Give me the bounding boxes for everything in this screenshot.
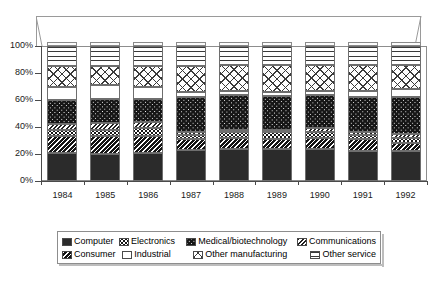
bar-segment[interactable]	[133, 136, 163, 152]
bar-segment[interactable]	[305, 46, 335, 65]
bar-segment[interactable]	[262, 46, 292, 65]
legend-label-other-manufacturing: Other manufacturing	[205, 250, 287, 259]
bars-layer	[41, 46, 427, 181]
bar-segment[interactable]	[47, 153, 77, 181]
legend-item-other-service[interactable]: Other service	[310, 248, 376, 261]
bar-segment[interactable]	[262, 132, 292, 139]
bar-segment[interactable]	[262, 149, 292, 181]
bar-segment[interactable]	[262, 130, 292, 133]
bar-segment[interactable]	[47, 87, 77, 101]
bar-1987[interactable]	[176, 46, 206, 181]
bar-1990[interactable]	[305, 46, 335, 181]
bar-segment[interactable]	[176, 135, 206, 139]
bar-segment[interactable]	[176, 92, 206, 97]
bar-segment[interactable]	[47, 136, 77, 152]
legend-item-computer[interactable]: Computer	[62, 235, 119, 248]
bar-segment[interactable]	[391, 97, 421, 133]
legend-item-medical-biotechnology[interactable]: Medical/biotechnology	[186, 235, 297, 248]
bar-segment[interactable]	[391, 138, 421, 143]
bar-segment[interactable]	[219, 95, 249, 130]
x-axis-tick-label: 1992	[384, 190, 427, 200]
bar-segment[interactable]	[90, 46, 120, 66]
bar-segment[interactable]	[133, 46, 163, 66]
legend-shadow-bottom	[59, 264, 384, 266]
bar-segment[interactable]	[90, 154, 120, 181]
bar-segment[interactable]	[391, 65, 421, 89]
bar-segment[interactable]	[391, 151, 421, 181]
bar-segment[interactable]	[219, 46, 249, 65]
bar-segment[interactable]	[176, 97, 206, 132]
bar-segment[interactable]	[348, 139, 378, 151]
bar-segment[interactable]	[90, 130, 120, 137]
bar-segment[interactable]	[219, 65, 249, 91]
legend-swatch-other-service	[310, 251, 320, 259]
bar-segment[interactable]	[391, 134, 421, 138]
legend-item-consumer[interactable]: Consumer	[62, 248, 122, 261]
bar-segment[interactable]	[133, 153, 163, 181]
bar-1986[interactable]	[133, 46, 163, 181]
legend-item-communications[interactable]: Communications	[297, 235, 376, 248]
bar-segment[interactable]	[391, 143, 421, 151]
bar-segment[interactable]	[348, 132, 378, 135]
chart-legend: ComputerElectronicsMedical/biotechnology…	[57, 231, 381, 264]
legend-row-2: ConsumerIndustrialOther manufacturingOth…	[62, 248, 376, 261]
bar-segment[interactable]	[90, 99, 120, 123]
bar-segment[interactable]	[262, 139, 292, 148]
bar-segment[interactable]	[305, 132, 335, 137]
bar-segment[interactable]	[133, 128, 163, 136]
bar-1992[interactable]	[391, 46, 421, 181]
bar-segment[interactable]	[133, 66, 163, 86]
bar-segment[interactable]	[391, 46, 421, 65]
x-axis-tick	[384, 181, 385, 185]
bar-segment[interactable]	[219, 149, 249, 181]
bar-segment[interactable]	[90, 85, 120, 99]
bar-segment[interactable]	[348, 151, 378, 181]
bar-segment[interactable]	[348, 97, 378, 132]
bar-segment[interactable]	[348, 46, 378, 65]
bar-segment[interactable]	[90, 123, 120, 130]
bar-segment[interactable]	[47, 130, 77, 137]
bar-segment[interactable]	[348, 135, 378, 139]
bar-1988[interactable]	[219, 46, 249, 181]
bar-segment[interactable]	[348, 91, 378, 98]
bar-segment[interactable]	[47, 46, 77, 66]
bar-segment[interactable]	[262, 96, 292, 130]
bar-segment[interactable]	[219, 132, 249, 137]
bar-segment[interactable]	[176, 46, 206, 66]
bar-segment[interactable]	[90, 136, 120, 154]
bar-1989[interactable]	[262, 46, 292, 181]
bar-segment[interactable]	[305, 91, 335, 95]
bar-segment[interactable]	[47, 66, 77, 86]
legend-item-industrial[interactable]: Industrial	[122, 248, 193, 261]
bar-segment[interactable]	[305, 149, 335, 181]
bar-1984[interactable]	[47, 46, 77, 181]
bar-segment[interactable]	[47, 100, 77, 124]
legend-item-other-manufacturing[interactable]: Other manufacturing	[193, 248, 310, 261]
bar-segment[interactable]	[219, 130, 249, 133]
legend-label-consumer: Consumer	[74, 250, 116, 259]
bar-segment[interactable]	[262, 65, 292, 92]
bar-segment[interactable]	[219, 138, 249, 149]
legend-item-electronics[interactable]: Electronics	[119, 235, 186, 248]
bar-segment[interactable]	[133, 87, 163, 99]
bar-segment[interactable]	[391, 89, 421, 97]
bar-1991[interactable]	[348, 46, 378, 181]
x-axis-tick-label: 1991	[341, 190, 384, 200]
bar-segment[interactable]	[305, 128, 335, 132]
bar-segment[interactable]	[262, 92, 292, 96]
bar-segment[interactable]	[133, 122, 163, 129]
bar-segment[interactable]	[305, 138, 335, 149]
bar-segment[interactable]	[348, 65, 378, 91]
bar-1985[interactable]	[90, 46, 120, 181]
bar-segment[interactable]	[219, 91, 249, 95]
bar-segment[interactable]	[47, 124, 77, 129]
bar-segment[interactable]	[176, 132, 206, 135]
x-axis-tick-label: 1984	[41, 190, 84, 200]
bar-segment[interactable]	[90, 66, 120, 85]
bar-segment[interactable]	[133, 99, 163, 122]
bar-segment[interactable]	[176, 139, 206, 150]
bar-segment[interactable]	[176, 150, 206, 181]
bar-segment[interactable]	[305, 65, 335, 91]
bar-segment[interactable]	[176, 66, 206, 92]
bar-segment[interactable]	[305, 95, 335, 129]
